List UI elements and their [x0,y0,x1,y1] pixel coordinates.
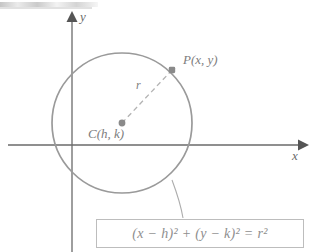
x-axis-label: x [292,149,298,162]
y-axis-label: y [80,10,86,23]
point-c-label: C(h, k) [88,127,124,140]
callout-leader-line [172,180,183,218]
equation-text: (x − h)² + (y − k)² = r² [97,220,303,247]
circle-equation-figure: y x P(x, y) C(h, k) r (x − h)² + (y − k)… [0,0,314,252]
diagram-canvas [0,0,314,252]
radius-segment [122,70,172,123]
radius-label: r [136,79,141,91]
x-axis-arrowhead [298,140,309,151]
equation-callout-box: (x − h)² + (y − k)² = r² [96,219,304,248]
y-axis-arrowhead [67,11,78,22]
y-axis [67,11,78,252]
point-p-label: P(x, y) [183,53,218,66]
x-axis [8,140,309,151]
point-p-marker [169,67,175,73]
